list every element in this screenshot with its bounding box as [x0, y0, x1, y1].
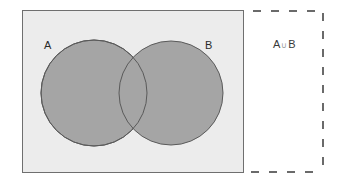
venn-diagram: A B A∪B [0, 0, 341, 184]
union-left-operand: A [273, 38, 281, 50]
union-right-operand: B [288, 38, 295, 50]
set-a-label: A [44, 39, 52, 51]
set-b-label: B [205, 39, 212, 51]
union-expression: A∪B [273, 38, 296, 50]
union-operator-symbol: ∪ [281, 41, 287, 50]
set-b-circle [119, 41, 223, 145]
